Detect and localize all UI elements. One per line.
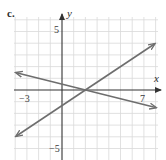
y-tick-neg5: −5 (49, 144, 60, 154)
y-axis-label: y (67, 8, 72, 19)
graph-figure: c. y x −3 7 5 −5 (0, 0, 166, 160)
y-tick-5: 5 (54, 25, 59, 35)
coordinate-plane (0, 0, 166, 160)
x-tick-7: 7 (140, 94, 145, 104)
x-axis-label: x (154, 73, 159, 84)
part-label: c. (7, 8, 15, 19)
x-tick-neg3: −3 (19, 94, 30, 104)
grid-lines (14, 17, 158, 160)
